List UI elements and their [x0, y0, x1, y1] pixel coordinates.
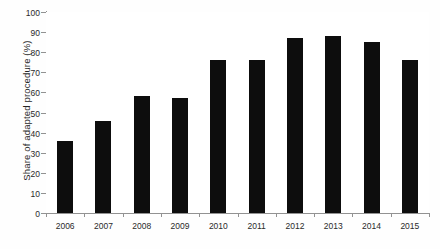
bar: [172, 98, 188, 213]
x-tick-mark: [199, 213, 200, 217]
bar: [364, 42, 380, 213]
bar: [402, 60, 418, 213]
x-tick-mark: [161, 213, 162, 217]
y-tick-label: 70: [14, 68, 40, 78]
y-tick-label: 60: [14, 88, 40, 98]
y-tick-label: 40: [14, 129, 40, 139]
bar-chart-figure: Share of adapted procedure (%) 010203040…: [0, 0, 440, 249]
bar: [57, 141, 73, 213]
x-tick-mark: [352, 213, 353, 217]
y-tick-label: 100: [14, 8, 40, 18]
y-tick-label: 90: [14, 28, 40, 38]
bar: [95, 121, 111, 213]
x-tick-mark: [429, 213, 430, 217]
y-tick-label: 50: [14, 109, 40, 119]
bar: [325, 36, 341, 213]
bar: [249, 60, 265, 213]
y-tick-label: 30: [14, 149, 40, 159]
x-tick-mark-origin: [46, 213, 47, 217]
x-tick-mark: [84, 213, 85, 217]
y-tick-label: 80: [14, 48, 40, 58]
bar: [210, 60, 226, 213]
y-tick-label: 0: [14, 209, 40, 219]
bar: [134, 96, 150, 213]
x-tick-mark: [238, 213, 239, 217]
plot-area: [46, 12, 429, 213]
x-tick-mark: [276, 213, 277, 217]
x-tick-mark: [391, 213, 392, 217]
y-tick-label: 10: [14, 189, 40, 199]
bar: [287, 38, 303, 213]
x-tick-label: 2015: [387, 221, 433, 231]
x-tick-mark: [314, 213, 315, 217]
x-tick-mark: [123, 213, 124, 217]
y-tick-label: 20: [14, 169, 40, 179]
